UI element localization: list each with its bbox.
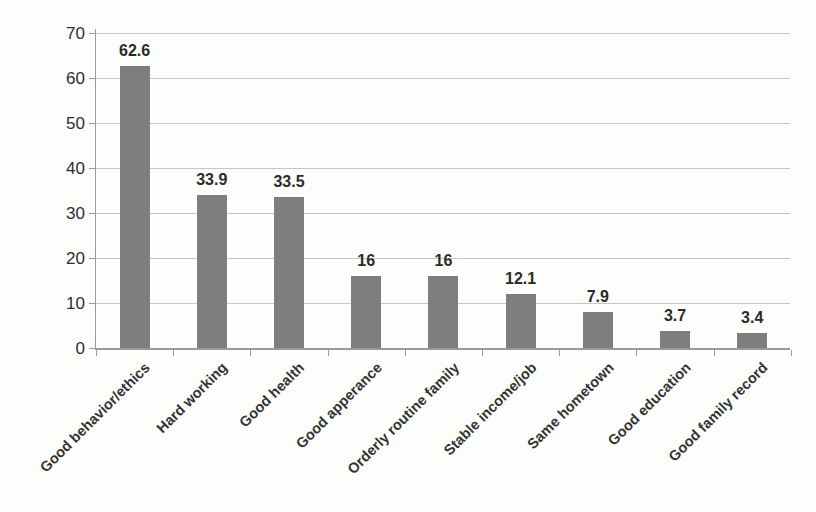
category-label: Good apperance bbox=[293, 360, 384, 451]
y-axis-tick-label: 20 bbox=[29, 250, 85, 267]
category-label: Same hometown bbox=[524, 360, 616, 452]
x-axis-line bbox=[95, 348, 790, 350]
scanned-bar-chart-page: 01020304050607062.6Good behavior/ethics3… bbox=[0, 0, 816, 512]
y-axis-tick-label: 70 bbox=[29, 25, 85, 42]
y-axis-tick-label: 60 bbox=[29, 70, 85, 87]
x-axis-tick bbox=[559, 350, 560, 356]
bar-value-label: 3.7 bbox=[640, 308, 710, 324]
bar bbox=[737, 333, 767, 348]
bar-value-label: 33.9 bbox=[177, 172, 247, 188]
bar-chart: 01020304050607062.6Good behavior/ethics3… bbox=[0, 0, 816, 512]
y-axis-tick-label: 40 bbox=[29, 160, 85, 177]
bar bbox=[583, 312, 613, 348]
y-axis-line bbox=[95, 29, 96, 349]
bar bbox=[506, 294, 536, 348]
bar-value-label: 62.6 bbox=[100, 43, 170, 59]
gridline bbox=[96, 33, 790, 34]
x-axis-tick bbox=[791, 350, 792, 356]
x-axis-tick bbox=[636, 350, 637, 356]
bar-value-label: 16 bbox=[331, 253, 401, 269]
y-axis-tick-label: 30 bbox=[29, 205, 85, 222]
bar bbox=[351, 276, 381, 348]
x-axis-tick bbox=[96, 350, 97, 356]
x-axis-tick bbox=[328, 350, 329, 356]
bar-value-label: 16 bbox=[408, 253, 478, 269]
x-axis-tick bbox=[173, 350, 174, 356]
x-axis-tick bbox=[482, 350, 483, 356]
category-label: Good education bbox=[605, 360, 693, 448]
category-label: Good behavior/ethics bbox=[38, 360, 153, 475]
bar bbox=[428, 276, 458, 348]
x-axis-tick bbox=[714, 350, 715, 356]
bar-value-label: 33.5 bbox=[254, 174, 324, 190]
x-axis-tick bbox=[405, 350, 406, 356]
bar bbox=[120, 66, 150, 348]
category-label: Good health bbox=[237, 360, 307, 430]
y-axis-tick-label: 50 bbox=[29, 115, 85, 132]
bar bbox=[197, 195, 227, 348]
bar-value-label: 3.4 bbox=[717, 310, 787, 326]
bar-value-label: 12.1 bbox=[486, 271, 556, 287]
gridline bbox=[96, 168, 790, 169]
y-axis-tick-label: 0 bbox=[29, 340, 85, 357]
gridline bbox=[96, 78, 790, 79]
bar bbox=[274, 197, 304, 348]
y-axis-tick-label: 10 bbox=[29, 295, 85, 312]
gridline bbox=[96, 123, 790, 124]
bar bbox=[660, 331, 690, 348]
category-label: Hard working bbox=[154, 360, 230, 436]
x-axis-tick bbox=[250, 350, 251, 356]
bar-value-label: 7.9 bbox=[563, 289, 633, 305]
